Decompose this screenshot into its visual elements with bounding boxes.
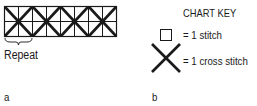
stitch-chart-grid xyxy=(0,0,130,50)
key-item-stitch-label: = 1 stitch xyxy=(183,29,222,41)
chart-key-title: CHART KEY xyxy=(183,7,236,19)
square-icon xyxy=(159,28,173,42)
key-item-cross-stitch-label: = 1 cross stitch xyxy=(183,55,248,67)
cross-icon xyxy=(151,43,183,75)
repeat-label: Repeat xyxy=(4,49,38,61)
caption-a: a xyxy=(4,91,9,103)
caption-b: b xyxy=(152,91,157,103)
repeat-brace-icon xyxy=(5,38,32,45)
